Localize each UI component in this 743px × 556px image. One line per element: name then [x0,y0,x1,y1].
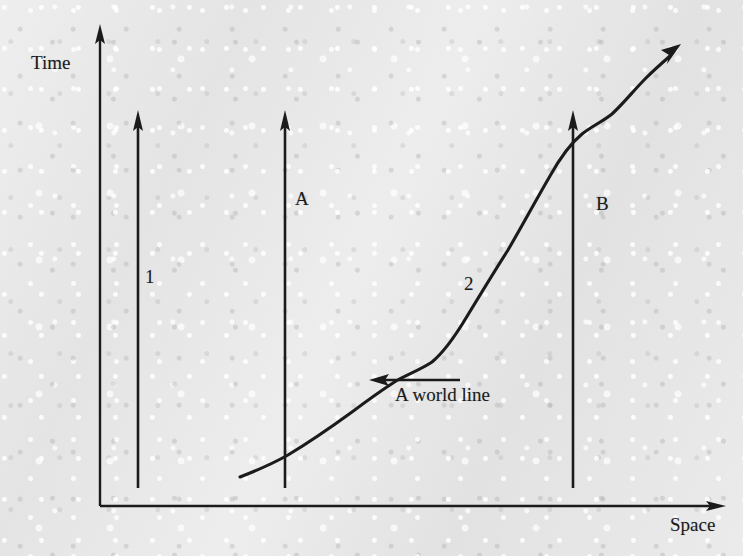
worldline-b-label: B [596,193,609,215]
diagram-canvas [0,0,743,556]
time-axis-label: Time [31,52,70,74]
worldline-1-arrow [133,110,143,488]
space-axis-label: Space [670,514,715,536]
space-axis [100,501,726,511]
worldline-a-arrow [280,110,290,488]
worldline-a-label: A [295,188,309,210]
worldline-b-arrow [568,110,578,488]
spacetime-diagram: Time Space 1 A B 2 A world line [0,0,743,556]
worldline-1-label: 1 [145,266,155,288]
worldline-2-path [240,56,670,477]
worldline-2-curve [240,44,681,477]
time-axis [95,24,105,506]
worldline-2-label: 2 [464,273,474,295]
world-line-annotation: A world line [395,384,490,406]
